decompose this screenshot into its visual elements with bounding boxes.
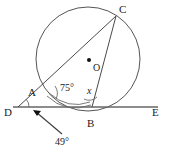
point-label-c: C bbox=[119, 3, 126, 15]
point-label-d: D bbox=[4, 106, 12, 118]
label-layer: A B C D E O 75° x 49° bbox=[0, 0, 171, 149]
angle-label-75: 75° bbox=[60, 82, 74, 93]
angle-label-49: 49° bbox=[55, 136, 69, 147]
geometry-figure: A B C D E O 75° x 49° bbox=[0, 0, 171, 149]
point-label-b: B bbox=[87, 117, 94, 129]
point-label-a: A bbox=[28, 86, 36, 98]
center-label-o: O bbox=[93, 62, 100, 73]
point-label-e: E bbox=[152, 106, 159, 118]
angle-label-x: x bbox=[86, 85, 92, 96]
